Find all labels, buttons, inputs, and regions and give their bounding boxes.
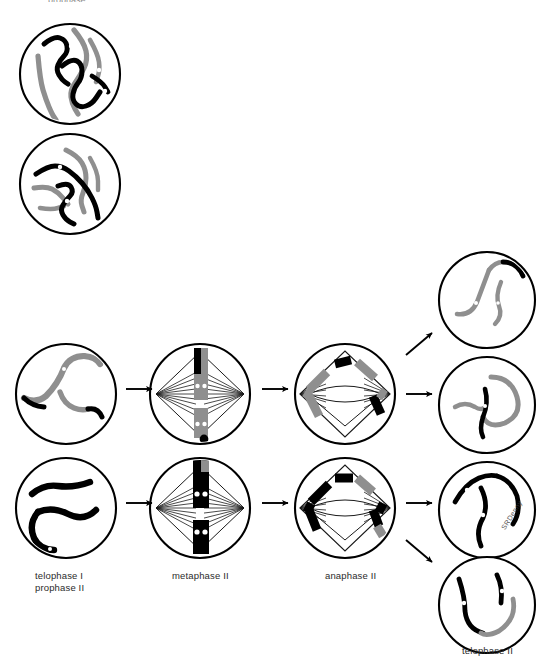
cell-group-ana2-0 [295,344,395,444]
centromere-1 [62,367,66,371]
cell-group-meta2-0 [150,344,250,444]
centromere-upper-right [202,384,206,388]
arrow-ana2-to-telo2-lower [406,540,432,562]
chromatid-lower-left [193,520,201,554]
label-metaphase2: metaphase II [172,570,229,582]
cell-group-telo2-1 [439,357,535,453]
centromere-upper-right [202,491,207,496]
centromere-2 [69,44,73,48]
cell-group-prophase-0 [20,24,120,124]
kinetochore-left [305,506,313,510]
chromatid-upper-gray-cap [201,460,209,472]
cell-group-ana2-1 [295,458,395,558]
centromere-2 [48,547,52,551]
centromere-1 [38,516,42,520]
cell-group-telo2-0 [439,252,535,348]
centromere-upper-left [195,384,199,388]
label-telophase2: telophase II [462,645,513,657]
chromatid-upper-dark-left [194,348,201,374]
centromere-2 [65,199,69,203]
cell-membrane-prophase-0 [20,24,120,124]
chromatid-upper-left [193,460,201,508]
centromere-2 [481,513,485,517]
centromere-4 [103,89,107,93]
centromere-1 [462,601,466,605]
centromere-lower-left [195,422,199,426]
centromere-1 [474,301,478,305]
cell-group-telo1-0 [16,344,116,444]
cell-membrane-telo2-3 [439,557,535,653]
centromere-1 [483,404,487,408]
cell-group-telo1-1 [16,458,116,558]
chromatid-lr-black [373,510,379,526]
chromosomes-meta2-0 [194,348,208,443]
cell-membrane-telo1-1 [16,458,116,558]
cell-group-prophase-1 [20,134,120,234]
centromere-upper-left [194,491,199,496]
cell-membrane-telo2-0 [439,252,535,348]
cell-group-telo2-3 [439,557,535,653]
cell-group-telo2-2 [439,462,535,558]
chromatid-lr-gray-tip [377,526,383,536]
cell-membrane-telo1-0 [16,344,116,444]
kinetochore-right [379,392,385,396]
top-cut-label: prophase [48,0,86,2]
meiosis-diagram: prophase telophase I prophase II metapha… [0,0,545,666]
centromere-2 [496,301,500,305]
cell-group-meta2-1 [150,458,250,558]
centromere-2 [500,589,504,593]
diagram-canvas [0,0,545,666]
centromere-1 [58,165,62,169]
centromere-lower-left [194,529,199,534]
label-anaphase2: anaphase II [325,570,376,582]
chromatid-upper-gray-right [201,348,208,374]
kinetochore-left [305,392,311,396]
centromere-1 [465,488,469,492]
centromere-lower-right [202,422,206,426]
centromere-1 [57,49,61,53]
centromere-3 [97,68,101,72]
arrow-ana2-to-telo2-upper [406,333,432,355]
chromatid-ul-black [335,360,351,364]
kinetochore-right [377,506,385,510]
label-telophase1-prophase2: telophase I prophase II [35,570,84,594]
chromosomes-meta2-1 [193,460,209,554]
centromere-lower-right [202,529,207,534]
chromatid-lower-right [201,520,209,554]
